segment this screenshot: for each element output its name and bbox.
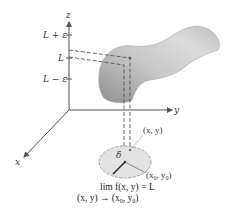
l-label: L (57, 53, 64, 63)
limit-formula-line1: lim f(x, y) = L (100, 182, 155, 193)
z-axis-label: z (65, 10, 71, 20)
limit-diagram: z y x L + ε L L − ε (x, y) δ (x0, y0) li… (0, 0, 234, 213)
x-axis-label: x (15, 157, 20, 167)
l-minus-eps-label: L − ε (42, 74, 67, 84)
surface-point (129, 57, 132, 60)
xy-label: (x, y) (143, 125, 163, 135)
surface (99, 26, 220, 103)
l-plus-eps-label: L + ε (42, 30, 67, 40)
y-axis-label: y (173, 105, 180, 115)
limit-formula-line2: (x, y) → (x0, y0) (77, 193, 138, 204)
delta-label: δ (116, 150, 121, 160)
x0y0-label: (x0, y0) (146, 170, 172, 181)
x-axis (24, 110, 69, 157)
